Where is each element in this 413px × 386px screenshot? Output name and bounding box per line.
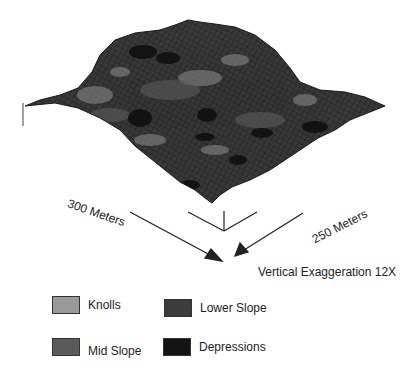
terrain-mesh: [0, 0, 413, 220]
legend-label: Lower Slope: [200, 301, 267, 315]
dimension-arrows: [130, 212, 303, 261]
terrain-surface-plot: [0, 0, 413, 386]
legend-item-mid-slope: Mid Slope: [52, 338, 141, 356]
legend-label: Knolls: [88, 298, 121, 312]
vertical-exaggeration-label: Vertical Exaggeration 12X: [258, 265, 396, 279]
lower-slope-swatch: [164, 299, 192, 317]
legend-label: Depressions: [199, 340, 266, 354]
knolls-swatch: [52, 296, 80, 314]
legend-label: Mid Slope: [88, 344, 141, 358]
legend-item-lower-slope: Lower Slope: [164, 299, 267, 317]
depressions-swatch: [163, 338, 191, 356]
corner-marker: [188, 211, 257, 231]
legend-item-depressions: Depressions: [163, 338, 266, 356]
legend-item-knolls: Knolls: [52, 296, 121, 314]
mid-slope-swatch: [52, 338, 80, 356]
